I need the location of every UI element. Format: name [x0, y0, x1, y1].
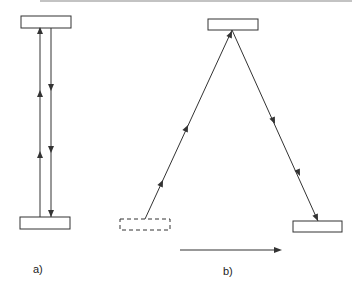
arrowhead-up-icon	[37, 90, 43, 97]
arrowhead-down-icon	[48, 210, 54, 217]
mirror-top-b	[208, 19, 258, 30]
panel-a-label: a)	[33, 263, 43, 275]
arrowhead-down-right-icon	[269, 116, 277, 125]
mirror-bottom-a	[20, 217, 70, 229]
arrowhead-down-right-icon	[294, 168, 302, 177]
light-clock-diagram	[0, 0, 359, 295]
arrowhead-down-icon	[48, 84, 54, 91]
panel-a	[20, 16, 71, 229]
ray-up-b	[145, 30, 232, 219]
arrowhead-up-right-icon	[182, 124, 190, 133]
arrowhead-up-right-icon	[157, 179, 165, 188]
motion-arrowhead-icon	[274, 247, 282, 253]
panel-b-label: b)	[223, 265, 233, 277]
mirror-top-a	[21, 16, 71, 28]
mirror-start-dashed-b	[120, 219, 170, 230]
arrowhead-down-icon	[48, 146, 54, 153]
arrowhead-up-icon	[37, 151, 43, 158]
panel-b	[120, 19, 342, 253]
ray-down-b	[232, 30, 318, 221]
mirror-end-b	[293, 221, 342, 232]
